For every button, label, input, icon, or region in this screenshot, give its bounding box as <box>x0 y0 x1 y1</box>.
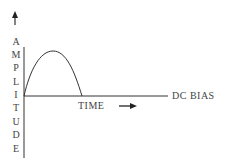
y-label-letter: U <box>11 117 21 127</box>
y-label-letter: T <box>11 103 21 113</box>
y-label-letter: P <box>11 63 21 73</box>
y-label-letter: E <box>11 144 21 154</box>
time-label: TIME <box>78 101 104 111</box>
y-label-letter: A <box>11 37 21 47</box>
time-arrow-icon <box>119 103 137 109</box>
y-label-letter: I <box>11 90 21 100</box>
amplitude-time-diagram: A M P L I T U D E TIME DC BIAS <box>0 0 228 162</box>
y-label-letter: D <box>11 130 21 140</box>
y-label-letter: L <box>11 77 21 87</box>
diagram-graphics <box>0 0 228 162</box>
dc-bias-label: DC BIAS <box>172 91 215 101</box>
up-arrow-icon <box>12 11 18 25</box>
amplitude-curve <box>24 51 82 96</box>
y-label-letter: M <box>11 50 21 60</box>
